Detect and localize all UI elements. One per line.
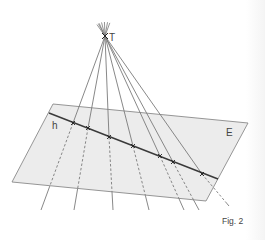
- ray-lower: [41, 186, 50, 210]
- plane-e-label: E: [226, 127, 233, 138]
- plane-e: [12, 104, 248, 201]
- ray-lower: [179, 198, 184, 210]
- figure-caption: Fig. 2: [222, 216, 244, 226]
- ray-lower: [194, 200, 199, 210]
- ray-lower: [112, 192, 113, 210]
- perspective-diagram: T h E Fig. 2: [0, 0, 265, 237]
- apex-label: T: [109, 32, 115, 43]
- ray-lower: [145, 195, 149, 210]
- line-h-label: h: [52, 120, 58, 131]
- ray-lower: [74, 189, 78, 210]
- ray-lower: [227, 203, 229, 206]
